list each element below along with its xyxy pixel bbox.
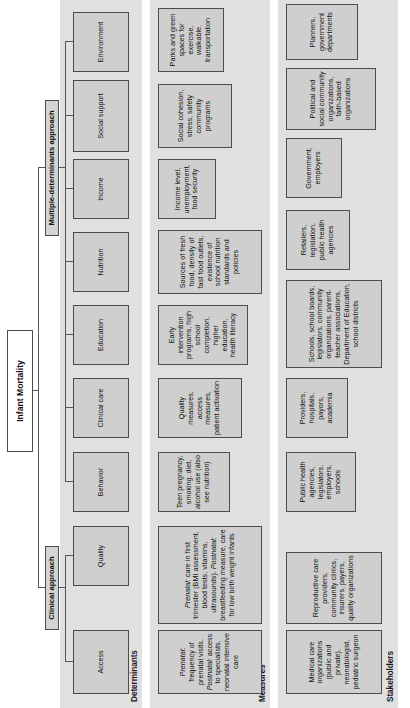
connector-multiple-to-behavior	[65, 481, 73, 482]
determinant-node-social-support[interactable]: Social support	[73, 80, 129, 152]
stakeholders-node-social-support[interactable]: Political and social community organizat…	[286, 68, 376, 130]
connector-to-multiple-approach	[38, 167, 45, 168]
determinant-node-behavior[interactable]: Behavior	[73, 452, 129, 512]
measures-node-income[interactable]: Income level, unemployment, food securit…	[158, 159, 216, 219]
connector-root-span	[38, 168, 39, 588]
approach-node-clinical[interactable]: Clinical approach	[45, 546, 59, 630]
determinant-node-quality[interactable]: Quality	[73, 526, 129, 586]
band-label-determinants: Determinants	[129, 650, 139, 702]
determinant-node-access[interactable]: Access	[73, 630, 129, 694]
connector-multiple-to-clinical-care	[65, 407, 73, 408]
stakeholders-node-nutrition[interactable]: Retailers, legislation, public health ag…	[286, 210, 350, 270]
stakeholders-node-environment[interactable]: Planners, government departments	[286, 4, 358, 60]
stakeholders-node-quality[interactable]: Reproductive care providers, community c…	[286, 552, 382, 624]
determinant-node-education[interactable]: Education	[73, 305, 129, 365]
diagram-canvas: Determinants Measures Stakeholders Infan…	[0, 0, 410, 708]
stakeholders-node-education[interactable]: Schools, school boards, legislators, com…	[286, 280, 382, 368]
stakeholders-node-access[interactable]: Medical care organizations (public and p…	[286, 630, 382, 694]
measures-node-environment[interactable]: Parks and green spaces for exercise, wal…	[158, 8, 224, 72]
connector-clinical-to-quality	[65, 555, 73, 556]
connector-multiple-to-nutrition	[65, 261, 73, 262]
measures-node-quality[interactable]: Prenatal: care in first trimester (BMI a…	[158, 526, 262, 624]
connector-multiple-to-environment	[65, 41, 73, 42]
connector-clinical-span	[65, 556, 66, 662]
measures-node-education[interactable]: Early intervention programs, high school…	[158, 305, 248, 365]
stakeholders-node-behavior[interactable]: Public health agencies, legislators, emp…	[286, 452, 356, 512]
stakeholders-node-clinical-care[interactable]: Providers, hospitals, payors, academia	[286, 378, 348, 438]
stakeholders-node-income[interactable]: Government, employers	[286, 138, 342, 198]
determinant-node-nutrition[interactable]: Nutrition	[73, 232, 129, 292]
band-label-stakeholders: Stakeholders	[385, 651, 395, 702]
connector-multiple-span	[65, 42, 66, 482]
root-node-infant-mortality[interactable]: Infant Mortality	[7, 330, 33, 452]
connector-multiple-to-education	[65, 334, 73, 335]
measures-node-behavior[interactable]: Teen pregnancy, smoking, diet, alcohol u…	[158, 452, 230, 512]
connector-multiple-to-income	[65, 188, 73, 189]
measures-node-access[interactable]: Prenatal: frequency of prenatal visits. …	[158, 630, 262, 694]
measures-node-social-support[interactable]: Social cohesion, stress, safety communit…	[158, 84, 232, 148]
connector-clinical-to-access	[65, 661, 73, 662]
connector-to-clinical-approach	[38, 587, 45, 588]
approach-node-multiple-determinants[interactable]: Multiple-determinants approach	[45, 100, 59, 236]
measures-node-nutrition[interactable]: Sources of fresh food, density of fast f…	[158, 230, 262, 294]
determinant-node-income[interactable]: Income	[73, 159, 129, 219]
determinant-node-environment[interactable]: Environment	[73, 12, 129, 72]
measures-node-clinical-care[interactable]: Quality measures, access measures, patie…	[158, 378, 242, 438]
connector-multiple-to-social-support	[65, 115, 73, 116]
diagram-rotation-wrapper: Determinants Measures Stakeholders Infan…	[0, 0, 410, 708]
determinant-node-clinical-care[interactable]: Clinical care	[73, 378, 129, 438]
